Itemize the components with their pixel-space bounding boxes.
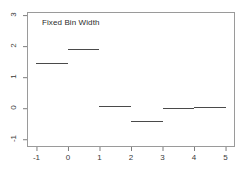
x-tick-label: -1 [28, 153, 44, 162]
x-tick-label: 5 [218, 153, 234, 162]
y-tick-label: -1 [9, 131, 18, 147]
chart-canvas: Fixed Bin Width -10123 -1012345 [0, 0, 248, 177]
y-tick-label: 3 [9, 7, 18, 23]
y-tick-label: 0 [9, 100, 18, 116]
step-segment [194, 107, 226, 108]
x-tick-label: 3 [155, 153, 171, 162]
step-segment [131, 121, 163, 122]
x-tick-label: 1 [91, 153, 107, 162]
y-tick-label: 2 [9, 38, 18, 54]
step-segment [36, 63, 68, 64]
step-segment [68, 49, 100, 50]
x-tick-label: 2 [123, 153, 139, 162]
x-tick-label: 0 [60, 153, 76, 162]
step-segment [99, 106, 131, 107]
step-segment [163, 108, 195, 109]
y-tick-label: 1 [9, 69, 18, 85]
x-tick-label: 4 [186, 153, 202, 162]
axis-ticks-layer [0, 0, 248, 177]
